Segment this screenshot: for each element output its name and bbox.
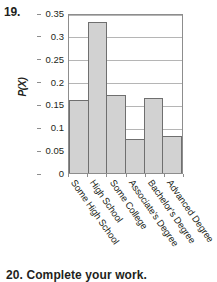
x-tick-mark <box>87 174 88 177</box>
bar <box>125 139 145 173</box>
bar <box>69 100 89 173</box>
y-tick-mark <box>37 128 41 129</box>
y-tick-mark <box>37 105 41 106</box>
x-tick-mark <box>106 174 107 177</box>
y-axis: 00.050.10.150.20.250.30.35 <box>31 14 64 174</box>
bar <box>106 95 126 173</box>
plot-area <box>68 14 183 174</box>
bar <box>144 98 164 173</box>
y-tick-mark <box>37 14 41 15</box>
y-tick-mark <box>37 36 41 37</box>
x-tick-mark <box>183 174 184 177</box>
bar <box>162 136 182 173</box>
bar-series <box>69 15 182 173</box>
y-axis-title: P(X) <box>17 77 28 96</box>
x-tick-mark <box>68 174 69 177</box>
x-tick-mark <box>164 174 165 177</box>
y-tick-mark <box>37 151 41 152</box>
next-problem-clipped-text: 20. Complete your work. <box>6 268 147 282</box>
x-tick-mark <box>145 174 146 177</box>
y-tick-mark <box>37 82 41 83</box>
x-tick-mark <box>126 174 127 177</box>
bar <box>88 22 108 173</box>
y-tick-mark <box>37 59 41 60</box>
y-tick-mark <box>37 174 41 175</box>
